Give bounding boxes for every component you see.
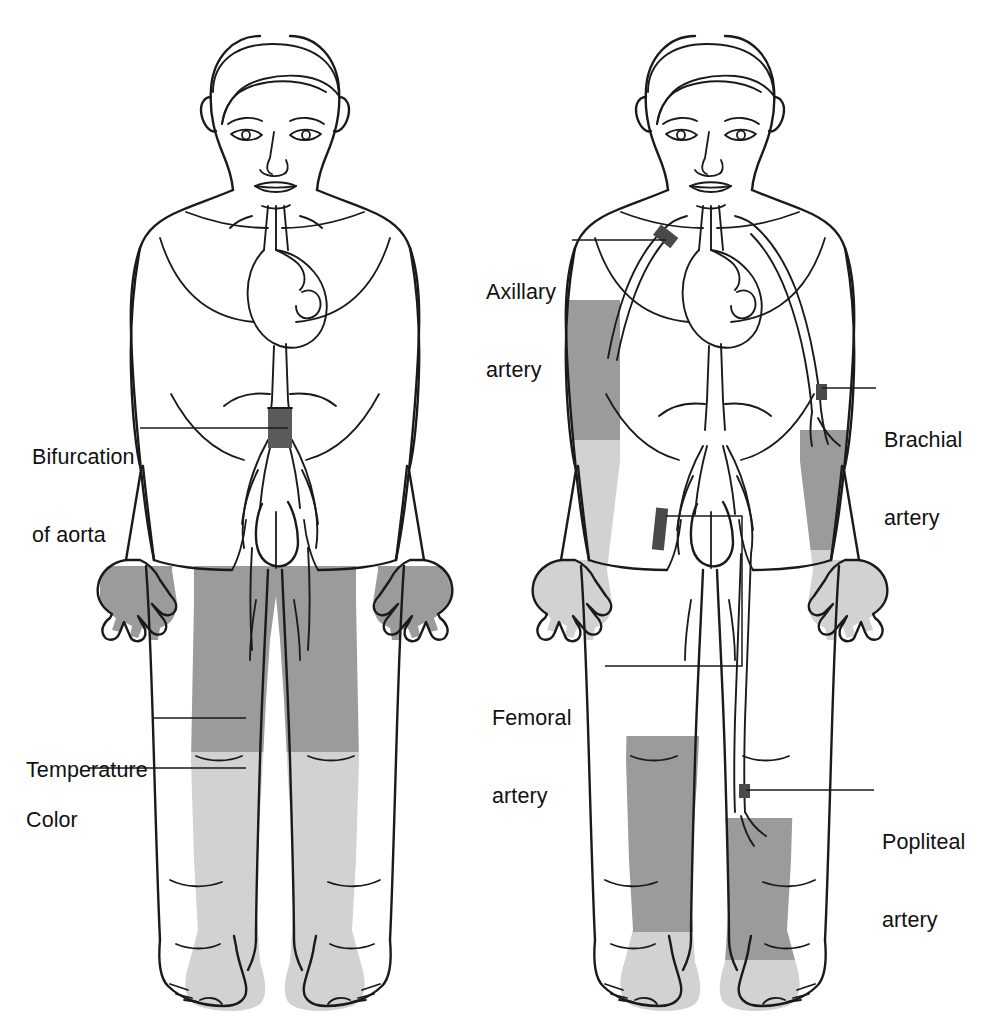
- label-femoral-artery: Femoral artery: [492, 653, 572, 835]
- popliteal-artery-marker: [739, 784, 750, 798]
- left-calf-shading: [710, 818, 890, 960]
- illustration-canvas: Bifurcation of aorta Temperature Color A…: [0, 0, 991, 1036]
- label-popliteal-artery: Popliteal artery: [882, 777, 965, 959]
- brachial-artery-marker: [816, 384, 827, 400]
- label-line-1: Popliteal: [882, 829, 965, 855]
- label-line-2: artery: [492, 783, 572, 809]
- right-figure-shading: [520, 300, 900, 1036]
- label-color: Color: [26, 755, 78, 859]
- label-bifurcation-of-aorta: Bifurcation of aorta: [32, 392, 135, 574]
- label-line-1: Femoral: [492, 705, 572, 731]
- label-line-1: Bifurcation: [32, 444, 135, 470]
- label-line-2: of aorta: [32, 522, 135, 548]
- label-line-1: Brachial: [884, 427, 962, 453]
- right-forearm-shading: [520, 440, 620, 660]
- label-line-1: Axillary: [486, 279, 556, 305]
- femoral-artery-marker: [652, 507, 668, 550]
- anatomy-illustration: [0, 0, 991, 1036]
- left-figure-outline: [98, 36, 453, 1006]
- label-axillary-artery: Axillary artery: [486, 227, 556, 409]
- label-brachial-artery: Brachial artery: [884, 375, 962, 557]
- label-line-2: artery: [882, 907, 965, 933]
- label-line-2: artery: [486, 357, 556, 383]
- label-line-2: artery: [884, 505, 962, 531]
- label-line-1: Color: [26, 807, 78, 833]
- left-hand-shading: [800, 550, 900, 660]
- right-foot-shading: [600, 932, 710, 1036]
